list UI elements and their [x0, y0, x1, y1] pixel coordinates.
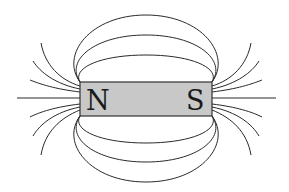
- bar-magnet: N S: [80, 82, 212, 116]
- magnetic-field-diagram: N S: [0, 0, 289, 192]
- north-pole-label: N: [86, 85, 110, 116]
- south-pole-label: S: [186, 85, 205, 116]
